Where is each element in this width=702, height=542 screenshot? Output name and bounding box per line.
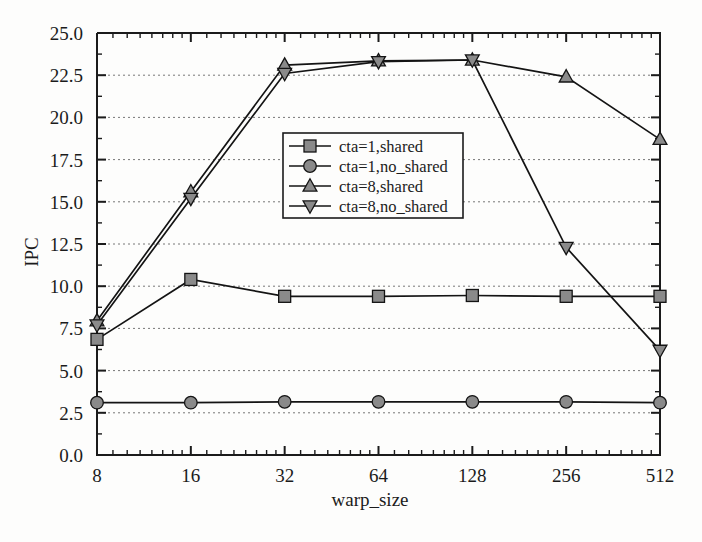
circle-marker-icon: [466, 396, 479, 409]
y-tick-label: 7.5: [59, 318, 83, 339]
x-tick-label: 8: [92, 465, 102, 486]
y-axis-title: IPC: [21, 237, 42, 267]
y-tick-label: 25.0: [50, 23, 83, 44]
y-tick-label: 2.5: [59, 403, 83, 424]
series-markers: [90, 53, 667, 409]
legend-label: cta=1,shared: [339, 137, 424, 156]
square-marker-icon: [279, 290, 291, 302]
line-chart-canvas: 0.02.55.07.510.012.515.017.520.022.525.0…: [0, 0, 702, 542]
square-marker-icon: [185, 273, 197, 285]
x-axis-title: warp_size: [331, 489, 408, 510]
square-marker-icon: [466, 289, 478, 301]
x-axis-tick-labels: 8163264128256512: [92, 465, 674, 486]
legend-label: cta=1,no_shared: [339, 157, 448, 176]
x-tick-label: 16: [181, 465, 200, 486]
y-tick-label: 20.0: [50, 107, 83, 128]
y-axis-tick-labels: 0.02.55.07.510.012.515.017.520.022.525.0: [50, 23, 83, 466]
y-tick-label: 22.5: [50, 65, 83, 86]
circle-marker-icon: [560, 396, 573, 409]
circle-marker-icon: [304, 160, 317, 173]
x-tick-label: 512: [646, 465, 675, 486]
data-series: [90, 53, 667, 409]
triangle-down-marker-icon: [653, 345, 667, 357]
y-tick-label: 12.5: [50, 234, 83, 255]
y-tick-label: 0.0: [59, 445, 83, 466]
circle-marker-icon: [654, 396, 667, 409]
legend-label: cta=8,shared: [339, 177, 424, 196]
x-tick-label: 64: [369, 465, 389, 486]
circle-marker-icon: [278, 396, 291, 409]
gridlines: [98, 75, 659, 413]
legend-label: cta=8,no_shared: [339, 197, 448, 216]
square-marker-icon: [373, 290, 385, 302]
x-tick-label: 32: [275, 465, 294, 486]
y-tick-label: 10.0: [50, 276, 83, 297]
circle-marker-icon: [91, 396, 104, 409]
y-tick-label: 15.0: [50, 192, 83, 213]
square-marker-icon: [304, 140, 316, 152]
y-tick-label: 5.0: [59, 361, 83, 382]
chart-figure: 0.02.55.07.510.012.515.017.520.022.525.0…: [0, 0, 702, 542]
circle-marker-icon: [185, 396, 198, 409]
y-tick-label: 17.5: [50, 150, 83, 171]
square-marker-icon: [560, 290, 572, 302]
series-lines: [97, 60, 660, 403]
series-line-0: [97, 279, 660, 339]
circle-marker-icon: [372, 396, 385, 409]
chart-legend: cta=1,sharedcta=1,no_sharedcta=8,sharedc…: [283, 133, 463, 218]
square-marker-icon: [654, 290, 666, 302]
square-marker-icon: [91, 333, 103, 345]
x-tick-label: 256: [552, 465, 581, 486]
x-tick-label: 128: [458, 465, 487, 486]
